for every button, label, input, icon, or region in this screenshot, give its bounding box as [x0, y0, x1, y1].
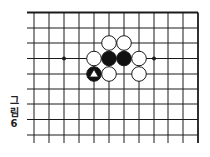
black-stone — [117, 51, 132, 66]
black-stone-disc — [117, 51, 132, 66]
white-stone — [102, 36, 117, 51]
go-board — [0, 0, 210, 157]
white-stone — [87, 51, 102, 66]
white-stone-disc — [117, 36, 132, 51]
white-stone-disc — [102, 36, 117, 51]
caption-char-1: 그 — [10, 95, 19, 107]
white-stone — [117, 36, 132, 51]
black-stone — [102, 51, 117, 66]
white-stone — [102, 67, 117, 82]
star-point — [62, 57, 66, 61]
white-stone-disc — [87, 51, 102, 66]
figure-caption: 그 림 6 — [8, 95, 20, 130]
black-stone-disc — [102, 51, 117, 66]
white-stone-disc — [132, 67, 147, 82]
white-stone — [132, 67, 147, 82]
star-point — [152, 57, 156, 61]
white-stone-disc — [132, 51, 147, 66]
white-stone-disc — [102, 67, 117, 82]
marked-black-stone — [87, 67, 102, 82]
caption-char-2: 림 — [10, 107, 19, 119]
white-stone — [132, 51, 147, 66]
caption-number: 6 — [11, 118, 18, 130]
